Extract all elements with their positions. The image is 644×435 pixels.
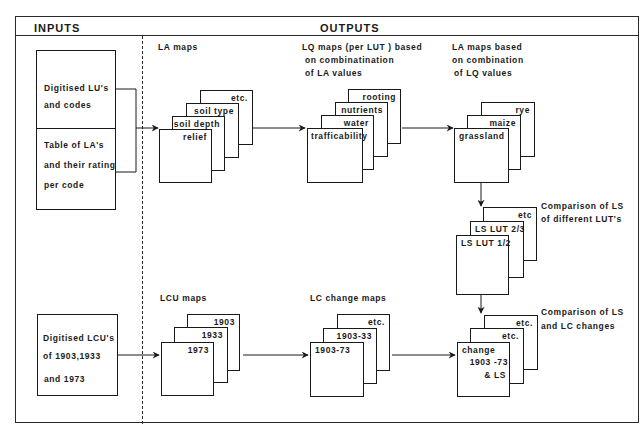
map-layer-label: etc. <box>231 93 248 103</box>
map-layer-label: soil depth <box>174 119 220 129</box>
input-digitised-lu-box: Digitised LU's and codes <box>36 50 116 129</box>
map-layer-label: trafficability <box>311 131 368 141</box>
map-layer-label: & LS <box>484 370 506 380</box>
map-layer-label: LS LUT 1/2 <box>461 238 511 248</box>
map-layer-label: 1903-73 <box>315 345 350 355</box>
map-layer-label: etc. <box>368 317 385 327</box>
map-layer-label: change <box>462 345 495 355</box>
ls-compare-caption: of different LUT's <box>541 213 622 227</box>
map-layer-label: maize <box>489 118 516 128</box>
lq-maps-caption: on combinatination <box>305 54 394 68</box>
map-layer-label: etc. <box>502 331 519 341</box>
la-based-caption: LA maps based <box>452 41 522 55</box>
map-layer-label: water <box>344 118 369 128</box>
map-layer-label: 1903 <box>214 317 235 327</box>
la-maps-caption: LA maps <box>158 41 198 55</box>
map-layer-card: 1973 <box>161 342 214 396</box>
map-layer-card: change 1903 -73 & LS <box>457 342 510 397</box>
ls-lc-compare-caption: Comparison of LS <box>541 306 624 320</box>
map-layer-label: 1903-33 <box>337 331 372 341</box>
map-layer-label: 1933 <box>202 330 223 340</box>
input-text-line: and codes <box>44 100 91 110</box>
map-layer-card: trafficability <box>307 128 363 183</box>
map-layer-label: grassland <box>459 131 505 141</box>
map-layer-card: relief <box>159 129 212 183</box>
ls-compare-caption: Comparison of LS <box>541 200 624 214</box>
map-layer-label: rye <box>515 105 530 115</box>
map-layer-label: relief <box>183 132 207 142</box>
map-layer-label: 1903 -73 <box>470 357 508 367</box>
input-text-line: Table of LA's <box>44 140 104 150</box>
lc-change-caption: LC change maps <box>310 292 386 306</box>
map-layer-label: rooting <box>363 92 396 102</box>
map-layer-label: 1973 <box>188 345 209 355</box>
lq-maps-caption: of LA values <box>305 67 362 81</box>
la-based-caption: on combination <box>452 54 524 68</box>
map-layer-label: etc <box>518 210 532 220</box>
input-text-line: Digitised LCU's <box>43 333 114 343</box>
input-text-line: Digitised LU's <box>44 83 109 93</box>
map-layer-label: LS LUT 2/3 <box>475 224 525 234</box>
input-text-line: per code <box>44 180 84 190</box>
input-text-line: of 1903,1933 <box>43 351 101 361</box>
map-layer-label: soil type <box>194 106 234 116</box>
map-layer-label: etc. <box>516 318 533 328</box>
input-text-line: and 1973 <box>44 374 85 384</box>
lcu-maps-caption: LCU maps <box>160 292 207 306</box>
map-layer-card: LS LUT 1/2 <box>456 235 509 295</box>
map-layer-card: grassland <box>454 128 509 183</box>
ls-lc-compare-caption: and LC changes <box>541 320 615 334</box>
map-layer-card: 1903-73 <box>310 342 364 397</box>
input-la-table-box: Table of LA's and their rating per code <box>36 128 116 210</box>
input-text-line: and their rating <box>44 160 115 170</box>
lq-maps-caption: LQ maps (per LUT ) based <box>302 41 422 55</box>
input-digitised-lcu-box: Digitised LCU's of 1903,1933 and 1973 <box>37 314 118 396</box>
la-based-caption: of LQ values <box>454 67 512 81</box>
map-layer-label: nutrients <box>341 105 383 115</box>
